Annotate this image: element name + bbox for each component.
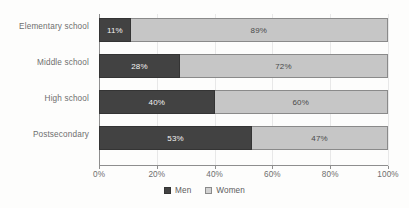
x-tick-label-80: 80% bbox=[322, 170, 339, 179]
bar-row[interactable]: 40% 60% bbox=[99, 90, 388, 114]
x-tick-label-20: 20% bbox=[148, 170, 165, 179]
bar-value-label: 40% bbox=[148, 98, 165, 107]
category-label-middle-school: Middle school bbox=[0, 58, 89, 67]
tick-mark bbox=[388, 166, 389, 169]
gridline-100 bbox=[388, 14, 389, 166]
bar-value-label: 72% bbox=[275, 62, 292, 71]
bar-row[interactable]: 11% 89% bbox=[99, 18, 388, 42]
category-label-elementary-school: Elementary school bbox=[0, 22, 89, 31]
bar-value-label: 28% bbox=[131, 62, 148, 71]
plot-area: 11% 89% 28% 72% 40% 60% 53% bbox=[99, 14, 388, 166]
category-label-high-school: High school bbox=[0, 94, 89, 103]
tick-mark bbox=[330, 166, 331, 169]
bar-segment-women[interactable]: 47% bbox=[252, 126, 388, 150]
tick-mark bbox=[157, 166, 158, 169]
x-tick-label-0: 0% bbox=[93, 170, 105, 179]
bar-row[interactable]: 28% 72% bbox=[99, 54, 388, 78]
bar-segment-women[interactable]: 72% bbox=[180, 54, 388, 78]
bar-segment-men[interactable]: 11% bbox=[99, 18, 131, 42]
bar-row[interactable]: 53% 47% bbox=[99, 126, 388, 150]
x-tick-label-60: 60% bbox=[264, 170, 281, 179]
men-swatch-icon bbox=[164, 187, 171, 194]
women-swatch-icon bbox=[205, 187, 212, 194]
category-axis-labels: Elementary school Middle school High sch… bbox=[0, 14, 94, 166]
tick-mark bbox=[99, 166, 100, 169]
bar-value-label: 47% bbox=[311, 134, 328, 143]
category-label-postsecondary: Postsecondary bbox=[0, 130, 89, 139]
bar-segment-men[interactable]: 53% bbox=[99, 126, 252, 150]
legend-label: Women bbox=[216, 186, 245, 195]
bar-segment-women[interactable]: 60% bbox=[215, 90, 388, 114]
legend-label: Men bbox=[175, 186, 191, 195]
tick-mark bbox=[272, 166, 273, 169]
x-axis-ticks: 0% 20% 40% 60% 80% 100% bbox=[99, 166, 388, 180]
x-tick-label-100: 100% bbox=[377, 170, 398, 179]
bar-value-label: 53% bbox=[167, 134, 184, 143]
bar-value-label: 89% bbox=[251, 26, 268, 35]
bar-segment-women[interactable]: 89% bbox=[131, 18, 388, 42]
bar-value-label: 11% bbox=[107, 26, 123, 35]
stacked-bar-chart: Elementary school Middle school High sch… bbox=[0, 0, 409, 208]
legend-item-women[interactable]: Women bbox=[205, 186, 245, 195]
chart-legend: Men Women bbox=[0, 186, 409, 195]
x-tick-label-40: 40% bbox=[206, 170, 223, 179]
bar-value-label: 60% bbox=[292, 98, 309, 107]
legend-item-men[interactable]: Men bbox=[164, 186, 191, 195]
bar-segment-men[interactable]: 28% bbox=[99, 54, 180, 78]
bar-segment-men[interactable]: 40% bbox=[99, 90, 215, 114]
tick-mark bbox=[215, 166, 216, 169]
